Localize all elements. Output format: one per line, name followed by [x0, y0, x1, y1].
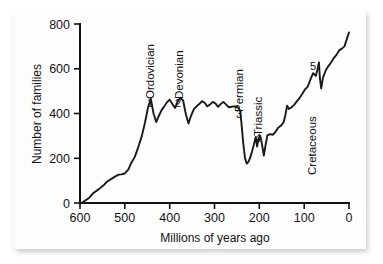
era-label-permian: Permian	[233, 69, 245, 112]
x-tick-label-0: 0	[346, 211, 353, 225]
era-label-devonian: Devonian	[173, 50, 185, 99]
x-tick-label-400: 400	[159, 211, 180, 225]
y-axis-title: Number of families	[30, 64, 44, 164]
x-tick-label-100: 100	[294, 211, 315, 225]
y-tick-label-800: 800	[49, 18, 70, 32]
x-tick-label-300: 300	[204, 211, 225, 225]
y-tick-label-200: 200	[49, 152, 70, 166]
era-label-ordovician: Ordovician	[144, 44, 156, 99]
y-tick-labels: 800 600 400 200 0	[49, 18, 70, 211]
era-annotations: Ordovician 1 Devonian 2 Permian 3 Triass…	[144, 44, 318, 175]
era-label-cretaceous: Cretaceous	[306, 116, 318, 175]
y-tick-label-600: 600	[49, 62, 70, 76]
figure-root: 800 600 400 200 0 600 500 400 300 200 10…	[0, 0, 383, 264]
era-label-triassic: Triassic	[252, 97, 264, 136]
event-marker-2: 2	[175, 97, 181, 109]
x-axis-title: Millions of years ago	[160, 231, 270, 245]
y-tick-label-400: 400	[49, 107, 70, 121]
event-marker-4: 4	[255, 132, 261, 144]
event-marker-1: 1	[147, 97, 153, 109]
axis-group	[80, 24, 349, 203]
diversity-chart: 800 600 400 200 0 600 500 400 300 200 10…	[0, 0, 383, 264]
event-marker-5: 5	[310, 60, 316, 72]
x-tick-label-600: 600	[70, 211, 91, 225]
x-tick-labels: 600 500 400 300 200 100 0	[70, 211, 353, 225]
event-marker-3: 3	[236, 108, 242, 120]
x-tick-label-500: 500	[114, 211, 135, 225]
x-tick-label-200: 200	[249, 211, 270, 225]
y-tick-label-0: 0	[63, 197, 70, 211]
